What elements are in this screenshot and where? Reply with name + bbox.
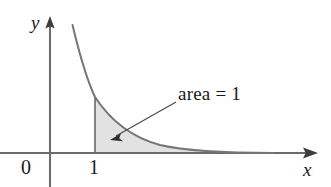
x-axis-label: x bbox=[303, 160, 311, 179]
tick-label-x-one: 1 bbox=[89, 157, 99, 177]
math-diagram-svg bbox=[0, 0, 331, 187]
figure-canvas: y x 0 1 area = 1 bbox=[0, 0, 331, 187]
y-axis-label: y bbox=[31, 13, 39, 32]
tick-label-origin: 0 bbox=[21, 157, 31, 177]
area-annotation-label: area = 1 bbox=[178, 84, 241, 103]
annotation-leader-line bbox=[116, 102, 176, 136]
